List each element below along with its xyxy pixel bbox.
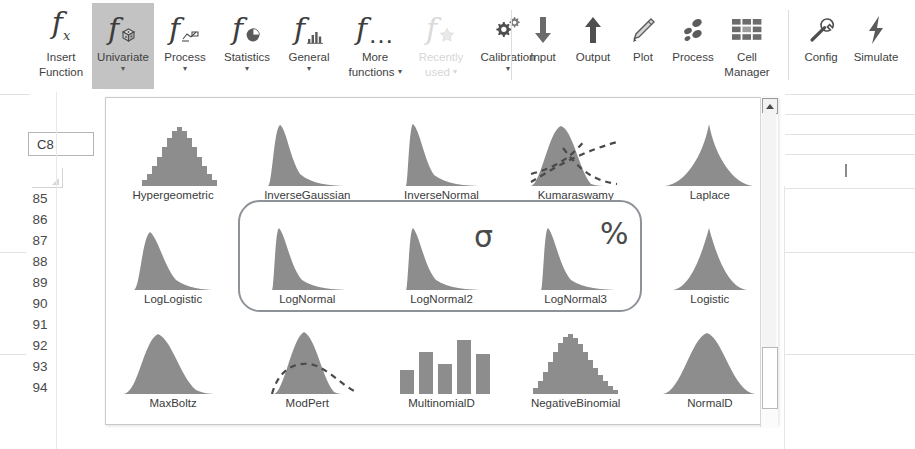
insert-function-label-1: Insert bbox=[46, 51, 77, 64]
select-all-corner[interactable] bbox=[32, 168, 63, 188]
plot-button[interactable]: Plot bbox=[618, 3, 668, 89]
gallery-item-label: MultinomialD bbox=[408, 397, 474, 410]
ribbon-separator-2 bbox=[788, 10, 789, 80]
arrow-down-icon bbox=[532, 11, 554, 49]
fx-dice-icon: f bbox=[108, 9, 138, 49]
process-label: Process bbox=[163, 51, 207, 64]
gallery-item-maxboltz[interactable]: MaxBoltz bbox=[106, 312, 240, 414]
process-tool-button[interactable]: Process bbox=[668, 3, 718, 89]
ribbon-group-functions: fx Insert Function f Univariate ▾ bbox=[30, 0, 544, 92]
loglogistic-thumbnail-icon bbox=[114, 222, 232, 292]
row-header[interactable]: 93 bbox=[24, 356, 56, 377]
gallery-scrollbar[interactable] bbox=[760, 97, 778, 427]
recently-used-button[interactable]: f Recently used ▾ bbox=[410, 3, 472, 89]
gallery-item-logistic[interactable]: Logistic bbox=[643, 208, 777, 310]
row-header[interactable]: 85 bbox=[24, 188, 56, 209]
config-label: Config bbox=[803, 51, 838, 64]
process-button[interactable]: f Process ▾ bbox=[154, 3, 216, 89]
sigma-annotation: σ bbox=[474, 222, 493, 252]
univariate-dropdown-chevron-down-icon[interactable]: ▾ bbox=[121, 65, 125, 73]
more-functions-label-2-text: functions bbox=[348, 66, 394, 79]
ribbon-group-data: Input Output Plot bbox=[518, 0, 776, 92]
scrollbar-up-triangle-up-icon[interactable] bbox=[762, 98, 778, 114]
gallery-item-label: NormalD bbox=[687, 397, 732, 410]
more-functions-button[interactable]: f… More functions ▾ bbox=[340, 3, 410, 89]
percent-annotation: % bbox=[600, 219, 629, 249]
fx-bars-icon: f bbox=[294, 9, 324, 49]
fx-flow-icon: f bbox=[169, 9, 201, 49]
name-box[interactable]: C8 bbox=[28, 132, 94, 156]
scrollbar-thumb[interactable] bbox=[762, 347, 778, 409]
gallery-item-laplace[interactable]: Laplace bbox=[643, 104, 777, 206]
gallery-item-normald[interactable]: NormalD bbox=[643, 312, 777, 414]
gallery-item-loglogistic[interactable]: LogLogistic bbox=[106, 208, 240, 310]
gallery-item-label: LogLogistic bbox=[144, 293, 202, 306]
gallery-item-label: Kumaraswamy bbox=[538, 189, 614, 202]
gallery-item-inversenormal[interactable]: InverseNormal bbox=[374, 104, 508, 206]
ribbon-separator-1 bbox=[511, 10, 512, 80]
row-header[interactable]: 86 bbox=[24, 209, 56, 230]
gallery-row: LogLogistic LogNormal LogNormal2 bbox=[106, 208, 777, 310]
input-button[interactable]: Input bbox=[518, 3, 568, 89]
gallery-item-multinomiald[interactable]: MultinomialD bbox=[374, 312, 508, 414]
statistics-dropdown-chevron-down-icon[interactable]: ▾ bbox=[245, 65, 249, 73]
negativebinomial-thumbnail-icon bbox=[517, 326, 635, 396]
process-dropdown-chevron-down-icon[interactable]: ▾ bbox=[183, 65, 187, 73]
simulate-label: Simulate bbox=[853, 51, 900, 64]
row-header[interactable]: 92 bbox=[24, 335, 56, 356]
gallery-item-hypergeometric[interactable]: Hypergeometric bbox=[106, 104, 240, 206]
cell-manager-button[interactable]: Cell Manager bbox=[718, 3, 776, 89]
gallery-item-lognormal[interactable]: LogNormal bbox=[240, 208, 374, 310]
more-functions-label-2: functions ▾ bbox=[347, 66, 402, 79]
gallery-row: Hypergeometric InverseGaussian InverseNo… bbox=[106, 104, 777, 206]
config-button[interactable]: Config bbox=[795, 3, 847, 89]
recently-used-label-2-text: used bbox=[425, 66, 450, 79]
row-header[interactable]: 87 bbox=[24, 230, 56, 251]
gallery-item-kumaraswamy[interactable]: Kumaraswamy bbox=[509, 104, 643, 206]
row-header[interactable]: 90 bbox=[24, 293, 56, 314]
logistic-thumbnail-icon bbox=[651, 222, 769, 292]
general-button[interactable]: f General ▾ bbox=[278, 3, 340, 89]
ribbon-toolbar: fx Insert Function f Univariate ▾ bbox=[0, 0, 915, 93]
recently-used-dropdown-chevron-down-icon[interactable]: ▾ bbox=[453, 68, 457, 76]
gallery-item-modpert[interactable]: ModPert bbox=[240, 312, 374, 414]
hypergeometric-thumbnail-icon bbox=[114, 118, 232, 188]
grid-3x3-icon bbox=[731, 11, 763, 49]
recently-used-label-1: Recently bbox=[418, 51, 465, 64]
gallery-item-label: Hypergeometric bbox=[133, 189, 214, 202]
row-header[interactable]: 89 bbox=[24, 272, 56, 293]
simulate-button[interactable]: Simulate bbox=[847, 3, 905, 89]
insert-function-button[interactable]: fx Insert Function bbox=[30, 3, 92, 89]
ribbon-group-settings: Config Simulate bbox=[795, 0, 905, 92]
output-button[interactable]: Output bbox=[568, 3, 618, 89]
univariate-distribution-gallery[interactable]: Hypergeometric InverseGaussian InverseNo… bbox=[105, 97, 778, 425]
process-tool-label: Process bbox=[671, 51, 715, 64]
plot-label: Plot bbox=[632, 51, 654, 64]
insert-function-label-2: Function bbox=[38, 66, 84, 79]
gallery-row: MaxBoltz ModPert bbox=[106, 312, 777, 414]
recently-used-label-2: used ▾ bbox=[424, 66, 458, 79]
row-header[interactable]: 94 bbox=[24, 377, 56, 398]
gallery-item-negativebinomial[interactable]: NegativeBinomial bbox=[509, 312, 643, 414]
row-header[interactable]: 88 bbox=[24, 251, 56, 272]
multinomiald-thumbnail-icon bbox=[382, 326, 500, 396]
more-functions-dropdown-chevron-down-icon[interactable]: ▾ bbox=[398, 68, 402, 76]
univariate-button[interactable]: f Univariate ▾ bbox=[92, 3, 154, 89]
lightning-icon bbox=[865, 11, 887, 49]
fx-pie-icon: f bbox=[232, 9, 262, 49]
gallery-item-label: LogNormal bbox=[279, 293, 335, 306]
statistics-button[interactable]: f Statistics ▾ bbox=[216, 3, 278, 89]
maxboltz-thumbnail-icon bbox=[114, 326, 232, 396]
calibration-dropdown-chevron-down-icon[interactable]: ▾ bbox=[506, 65, 510, 73]
laplace-thumbnail-icon bbox=[651, 118, 769, 188]
arrow-up-icon bbox=[582, 11, 604, 49]
gallery-item-label: MaxBoltz bbox=[149, 397, 196, 410]
gallery-item-inversegaussian[interactable]: InverseGaussian bbox=[240, 104, 374, 206]
gallery-item-label: LogNormal2 bbox=[410, 293, 473, 306]
fx-ellipsis-icon: f… bbox=[356, 9, 394, 49]
row-header-column: 85 86 87 88 89 90 91 92 93 94 bbox=[24, 188, 56, 398]
gallery-item-label: ModPert bbox=[286, 397, 329, 410]
row-header[interactable]: 91 bbox=[24, 314, 56, 335]
general-dropdown-chevron-down-icon[interactable]: ▾ bbox=[307, 65, 311, 73]
gallery-item-label: Logistic bbox=[690, 293, 729, 306]
